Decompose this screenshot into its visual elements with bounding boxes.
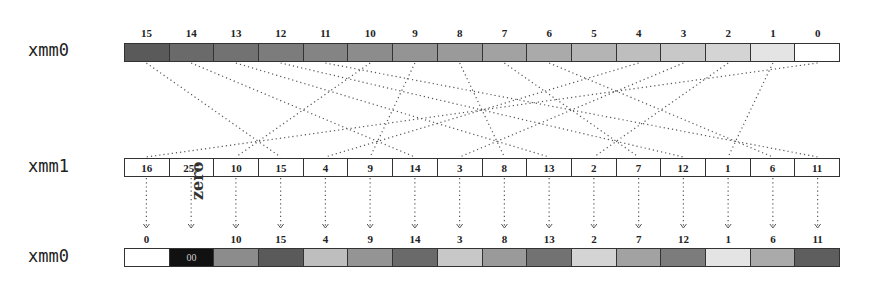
mask-register-label: xmm1 xyxy=(28,156,69,176)
src-byte xyxy=(214,44,259,61)
src-index: 3 xyxy=(661,27,706,41)
mask-byte: 16 xyxy=(125,159,170,176)
dst-index: 6 xyxy=(751,233,796,247)
dst-index: 1 xyxy=(706,233,751,247)
dst-index: 13 xyxy=(527,233,572,247)
src-byte xyxy=(661,44,706,61)
src-byte xyxy=(706,44,751,61)
mask-register: 16 255 10 15 4 9 14 3 8 13 2 7 12 1 6 11 xyxy=(124,158,840,177)
src-register-label: xmm0 xyxy=(28,40,69,60)
mask-byte: 9 xyxy=(348,159,393,176)
src-index: 15 xyxy=(124,27,169,41)
src-index: 10 xyxy=(348,27,393,41)
src-byte xyxy=(795,44,839,61)
mask-byte: 1 xyxy=(706,159,751,176)
src-index: 7 xyxy=(482,27,527,41)
src-byte xyxy=(348,44,393,61)
mask-byte: 15 xyxy=(259,159,304,176)
src-index: 11 xyxy=(303,27,348,41)
dst-index: 9 xyxy=(348,233,393,247)
dst-register: 00 xyxy=(124,248,840,267)
dst-index: 12 xyxy=(661,233,706,247)
src-index: 0 xyxy=(795,27,840,41)
src-byte xyxy=(393,44,438,61)
src-index: 9 xyxy=(393,27,438,41)
dst-byte xyxy=(795,249,839,266)
src-byte xyxy=(259,44,304,61)
dst-index xyxy=(169,233,214,247)
mask-byte: 11 xyxy=(795,159,839,176)
dst-byte xyxy=(661,249,706,266)
src-register xyxy=(124,43,840,62)
dst-byte xyxy=(527,249,572,266)
src-index: 1 xyxy=(751,27,796,41)
dst-byte xyxy=(304,249,349,266)
dst-byte xyxy=(617,249,662,266)
dst-index: 7 xyxy=(616,233,661,247)
src-byte xyxy=(438,44,483,61)
src-index: 2 xyxy=(706,27,751,41)
mask-byte: 6 xyxy=(751,159,796,176)
dst-index: 15 xyxy=(258,233,303,247)
src-index: 14 xyxy=(169,27,214,41)
mask-byte: 14 xyxy=(393,159,438,176)
src-byte xyxy=(527,44,572,61)
dst-byte xyxy=(259,249,304,266)
dst-byte xyxy=(125,249,170,266)
dst-byte xyxy=(393,249,438,266)
src-index: 6 xyxy=(527,27,572,41)
dst-index: 0 xyxy=(124,233,169,247)
mask-byte: 12 xyxy=(661,159,706,176)
dst-index-labels: 0 10 15 4 9 14 3 8 13 2 7 12 1 6 11 xyxy=(124,233,840,247)
dst-byte: 00 xyxy=(170,249,215,266)
mask-byte: 8 xyxy=(483,159,528,176)
mask-byte: 10 xyxy=(214,159,259,176)
mask-byte: 3 xyxy=(438,159,483,176)
dst-index: 3 xyxy=(437,233,482,247)
src-index-labels: 15 14 13 12 11 10 9 8 7 6 5 4 3 2 1 0 xyxy=(124,27,840,41)
mask-byte: 4 xyxy=(304,159,349,176)
src-byte xyxy=(572,44,617,61)
dst-index: 11 xyxy=(795,233,840,247)
src-byte xyxy=(304,44,349,61)
dst-register-label: xmm0 xyxy=(28,246,69,266)
src-byte xyxy=(751,44,796,61)
src-index: 8 xyxy=(437,27,482,41)
src-byte xyxy=(617,44,662,61)
dst-index: 10 xyxy=(214,233,259,247)
src-byte xyxy=(170,44,215,61)
dst-index: 4 xyxy=(303,233,348,247)
dst-byte xyxy=(348,249,393,266)
dst-index: 2 xyxy=(572,233,617,247)
dst-index: 8 xyxy=(482,233,527,247)
dst-byte xyxy=(751,249,796,266)
mask-byte: 2 xyxy=(572,159,617,176)
dst-index: 14 xyxy=(393,233,438,247)
src-index: 5 xyxy=(572,27,617,41)
src-byte xyxy=(483,44,528,61)
mask-byte: 7 xyxy=(617,159,662,176)
src-byte xyxy=(125,44,170,61)
dst-byte xyxy=(572,249,617,266)
src-index: 12 xyxy=(258,27,303,41)
dst-byte xyxy=(438,249,483,266)
dst-byte xyxy=(214,249,259,266)
dst-byte xyxy=(483,249,528,266)
src-index: 4 xyxy=(616,27,661,41)
src-index: 13 xyxy=(214,27,259,41)
zero-annotation: zero xyxy=(188,162,207,200)
mask-byte: 13 xyxy=(527,159,572,176)
dst-byte xyxy=(706,249,751,266)
